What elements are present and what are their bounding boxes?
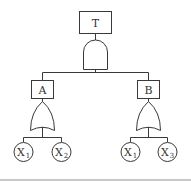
or-gate-icon [137, 102, 161, 131]
basic-event-subscript: 2 [64, 152, 68, 160]
basic-event-label: X [124, 146, 132, 159]
basic-event-subscript: 3 [170, 152, 174, 160]
basic-event-subscript: 1 [133, 152, 137, 160]
event-b: B X 1 X 3 [121, 81, 177, 162]
event-a: A X 1 X 2 [14, 81, 71, 162]
basic-event-label: X [161, 146, 169, 159]
basic-event-label: X [55, 146, 63, 159]
top-event-label: T [92, 17, 100, 30]
event-a-label: A [38, 84, 48, 97]
basic-event-label: X [17, 146, 25, 159]
event-b-label: B [144, 84, 152, 97]
fault-tree-diagram: T A X 1 X 2 B X 1 X 3 [0, 0, 191, 181]
basic-event-subscript: 1 [26, 152, 30, 160]
and-gate-icon [84, 40, 108, 70]
or-gate-icon [31, 102, 55, 131]
